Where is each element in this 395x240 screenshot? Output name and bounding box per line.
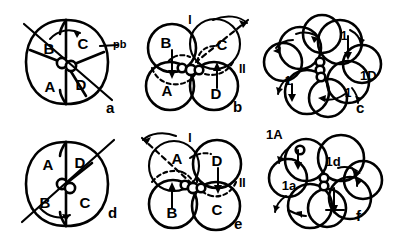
panel-c-micromere-1-right: 1: [345, 86, 352, 100]
panel-b-furrow-I: I: [188, 13, 191, 27]
spiral-cleavage-figure: B C A D pb a B C A D: [0, 0, 395, 240]
panel-d: A D B C d: [22, 140, 117, 226]
panel-b-label-A: A: [162, 82, 173, 99]
panel-b-label-C: C: [217, 36, 228, 53]
panel-c-micromere-1-top: 1: [341, 29, 348, 43]
panel-a: B C A D pb a: [24, 20, 127, 116]
panel-b: B C A D I II b: [146, 13, 248, 115]
panel-a-label-A: A: [45, 78, 56, 95]
panel-e-label-B: B: [167, 204, 178, 221]
panel-d-label-A: A: [43, 156, 54, 173]
panel-e-label-A: A: [172, 150, 183, 167]
panel-a-letter: a: [106, 99, 115, 116]
panel-a-label-D: D: [76, 76, 87, 93]
panel-a-label-pb: pb: [113, 38, 127, 50]
panel-e-letter: e: [234, 215, 242, 232]
panel-d-label-C: C: [80, 194, 91, 211]
panel-e-label-D: D: [212, 152, 223, 169]
panel-d-label-B: B: [40, 194, 51, 211]
panel-f-label-1d: 1d: [325, 154, 340, 169]
panel-f-label-1A: 1A: [266, 127, 283, 142]
panel-e-label-C: C: [212, 201, 223, 218]
panel-e-furrow-II: II: [239, 176, 246, 190]
panel-e-furrow-I: I: [188, 131, 191, 145]
panel-b-label-B: B: [161, 34, 172, 51]
panel-d-label-D: D: [75, 154, 86, 171]
panel-c-micromere-1-bottom: 1: [285, 74, 292, 88]
panel-f: 1A 1d 1a f: [266, 127, 382, 228]
panel-c: 1 1 1 1D c: [264, 15, 381, 117]
panel-c-letter: c: [356, 99, 364, 116]
panel-f-label-1a: 1a: [282, 178, 297, 193]
panel-d-letter: d: [108, 204, 117, 221]
panel-b-label-D: D: [211, 85, 222, 102]
panel-b-furrow-II: II: [239, 62, 246, 76]
panel-a-label-B: B: [44, 40, 55, 57]
panel-b-letter: b: [233, 98, 242, 115]
panel-c-label-1D: 1D: [360, 68, 377, 83]
panel-e: A D B C I II e: [142, 131, 246, 232]
panel-a-label-C: C: [78, 35, 89, 52]
